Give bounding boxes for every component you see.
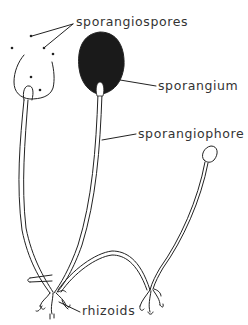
label-sporangiospores: sporangiospores bbox=[76, 16, 188, 29]
label-sporangiophore: sporangiophore bbox=[138, 128, 244, 141]
right-rhizoids bbox=[140, 289, 163, 314]
label-rhizoids: rhizoids bbox=[82, 305, 135, 318]
ruptured-sporangium bbox=[14, 55, 54, 99]
young-sporangium bbox=[202, 146, 217, 162]
right-sporangiophore bbox=[150, 162, 205, 290]
sporangiospores-leader bbox=[32, 24, 73, 47]
label-sporangium: sporangium bbox=[158, 80, 238, 93]
rhizopus-diagram bbox=[0, 0, 248, 325]
sporangium-dark bbox=[79, 32, 125, 96]
spore-dots bbox=[11, 35, 55, 92]
